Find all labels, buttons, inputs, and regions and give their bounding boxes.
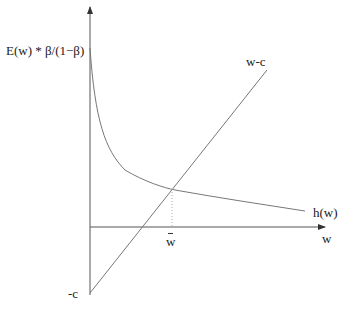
h-curve bbox=[90, 48, 305, 211]
w-minus-c-line bbox=[90, 70, 267, 293]
reservation-wage-label: w bbox=[166, 235, 175, 248]
y-axis-label: E(w) * β/(1−β) bbox=[6, 44, 84, 57]
x-axis-label: w bbox=[322, 232, 331, 245]
intercept-label: -c bbox=[68, 287, 78, 300]
line-label: w-c bbox=[246, 55, 266, 68]
diagram-canvas: E(w) * β/(1−β) w-c h(w) w w -c bbox=[0, 0, 354, 309]
h-curve-label: h(w) bbox=[313, 206, 338, 219]
